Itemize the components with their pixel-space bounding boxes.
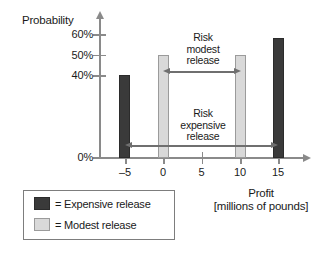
annotation-risk-expensive-right-arrow-icon (271, 142, 278, 148)
x-axis-arrow-icon (303, 154, 311, 162)
legend-swatch-modest-icon (34, 218, 50, 231)
y-tick-50 (93, 55, 106, 57)
annotation-risk-expensive-line-2: release (152, 131, 254, 143)
x-tick-label-5: 5 (182, 167, 222, 178)
x-tick-label-15: 15 (258, 167, 298, 178)
x-tick-label-10: 10 (220, 167, 260, 178)
y-tick-label-0: 0% (33, 152, 93, 163)
y-tick-label-40: 40% (33, 70, 93, 81)
annotation-risk-expensive-span-line (131, 145, 273, 146)
annotation-risk-modest-left-arrow-icon (163, 68, 170, 74)
annotation-risk-modest-line-2: release (153, 55, 253, 67)
annotation-risk-expensive-left-arrow-icon (125, 142, 132, 148)
y-tick-40 (93, 75, 106, 77)
y-tick-label-50: 50% (33, 50, 93, 61)
annotation-risk-expensive-line-0: Risk (152, 108, 254, 120)
y-axis-arrow-icon (96, 11, 104, 19)
x-axis-title: Profit [millions of pounds] (196, 187, 326, 213)
y-axis-line (99, 18, 101, 158)
legend-swatch-expensive-icon (34, 197, 50, 210)
annotation-risk-expensive-release: Risk expensive release (152, 108, 254, 143)
x-tick-label-0: 0 (143, 167, 183, 178)
x-tick-label-minus5: –5 (105, 167, 145, 178)
legend-label-modest-release: = Modest release (55, 219, 137, 231)
x-axis-title-line-1: [millions of pounds] (196, 200, 326, 213)
probability-profit-chart: Probability 0% 40% 50% 60% –5 0 5 10 15 … (0, 0, 332, 260)
bar-expensive-15 (273, 38, 284, 158)
y-tick-label-60: 60% (33, 29, 93, 40)
annotation-risk-modest-right-arrow-icon (234, 68, 241, 74)
legend-label-expensive-release: = Expensive release (55, 198, 151, 210)
y-tick-60 (93, 34, 106, 36)
x-axis-title-line-0: Profit (196, 187, 326, 200)
x-tick-5 (202, 152, 204, 164)
annotation-risk-modest-release: Risk modest release (153, 32, 253, 67)
y-tick-0 (93, 157, 106, 159)
annotation-risk-modest-span-line (169, 71, 236, 72)
annotation-risk-modest-line-0: Risk (153, 32, 253, 44)
y-axis-title: Probability (22, 14, 74, 26)
legend-item-expensive-release: = Expensive release (34, 197, 151, 210)
legend-item-modest-release: = Modest release (34, 218, 137, 231)
chart-legend: = Expensive release = Modest release (23, 190, 175, 240)
